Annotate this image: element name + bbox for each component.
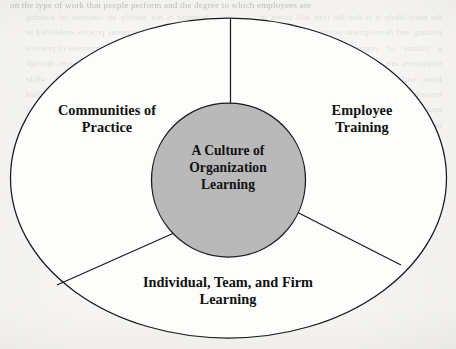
scanned-page: on the type of work that people perform …: [0, 0, 456, 349]
center-circle-label: A Culture of Organization Learning: [156, 142, 300, 193]
segment-label-individual-team-firm-learning: Individual, Team, and Firm Learning: [108, 274, 348, 307]
segment-label-communities-of-practice: Communities of Practice: [32, 102, 182, 135]
segment-label-employee-training: Employee Training: [296, 102, 428, 135]
